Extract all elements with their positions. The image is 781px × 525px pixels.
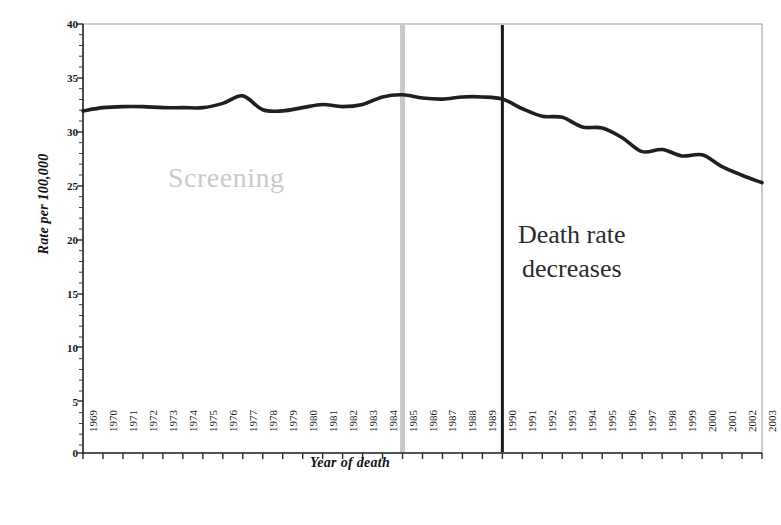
x-tick-label: 1978 — [267, 408, 279, 468]
x-tick-label: 1985 — [407, 408, 419, 468]
x-tick-label: 1974 — [187, 408, 199, 468]
x-tick-label: 1970 — [107, 408, 119, 468]
x-tick-label: 1972 — [147, 408, 159, 468]
x-tick-label: 1988 — [466, 408, 478, 468]
x-tick-label: 1995 — [606, 408, 618, 468]
x-tick-label: 1993 — [566, 408, 578, 468]
x-tick-label: 1991 — [526, 408, 538, 468]
annotation-death-line-2: decreases — [518, 252, 626, 286]
x-tick-label: 1990 — [506, 408, 518, 468]
x-tick-label: 2000 — [706, 408, 718, 468]
x-axis-title: Year of death — [310, 455, 390, 471]
x-tick-label: 1987 — [446, 408, 458, 468]
x-tick-label: 2003 — [766, 408, 778, 468]
x-tick-label: 2001 — [726, 408, 738, 468]
x-tick-label: 1971 — [127, 408, 139, 468]
x-tick-label: 1976 — [227, 408, 239, 468]
x-tick-label: 1994 — [586, 408, 598, 468]
x-tick-label: 1973 — [167, 408, 179, 468]
x-tick-label: 1989 — [486, 408, 498, 468]
x-tick-label: 1977 — [247, 408, 259, 468]
x-tick-label: 1979 — [287, 408, 299, 468]
x-tick-label: 1997 — [646, 408, 658, 468]
x-tick-label: 1986 — [427, 408, 439, 468]
x-tick-label: 1975 — [207, 408, 219, 468]
annotation-death-line-1: Death rate — [518, 218, 626, 252]
annotation-death-rate-decreases: Death rate decreases — [518, 218, 626, 286]
x-axis-tick-labels: 1969197019711972197319741975197619771978… — [0, 0, 781, 525]
x-tick-label: 1998 — [666, 408, 678, 468]
chart-figure: Rate per 100,000 40 35 30 25 20 15 10 5 … — [0, 0, 781, 525]
x-tick-label: 1969 — [87, 408, 99, 468]
x-tick-label: 1992 — [546, 408, 558, 468]
x-tick-label: 1999 — [686, 408, 698, 468]
annotation-screening: Screening — [168, 162, 284, 194]
x-tick-label: 2002 — [746, 408, 758, 468]
x-tick-label: 1996 — [626, 408, 638, 468]
